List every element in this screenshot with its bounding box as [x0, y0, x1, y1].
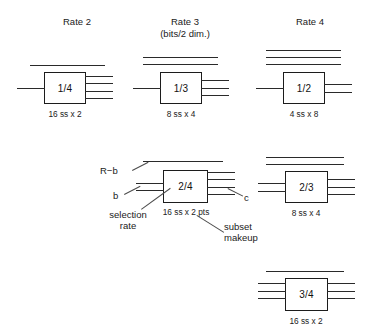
wire-right-1	[201, 80, 229, 81]
leader-line-subset-makeup	[196, 215, 224, 233]
rate-box-label: 2/4	[178, 181, 193, 192]
annotation-selection-rate: selection rate	[94, 209, 162, 231]
column-title: Rate 4	[260, 16, 360, 28]
wire-left-1	[258, 283, 286, 284]
wire-right-4	[85, 98, 113, 99]
wire-left-2	[258, 291, 286, 292]
wire-right-4	[207, 194, 235, 195]
rate-box: 1/4	[44, 72, 86, 104]
annotation-b: b	[113, 190, 118, 201]
column-header-rate-4: Rate 4	[260, 16, 360, 28]
wire-right-3	[207, 187, 235, 188]
wire-left-1	[133, 88, 161, 89]
annotation-c: c	[244, 192, 249, 203]
wire-right-2	[327, 291, 355, 292]
wire-right-3	[85, 91, 113, 92]
wire-left-2	[258, 191, 286, 192]
annotation-subset-makeup-line-1: subset	[224, 221, 258, 232]
column-header-rate-3: Rate 3 (bits/2 dim.)	[135, 16, 235, 39]
rate-box-diagram: Rate 2 Rate 3 (bits/2 dim.) Rate 4 1/4 1…	[0, 0, 367, 334]
wire-above	[143, 161, 223, 162]
rate-box-label: 1/3	[174, 83, 189, 94]
wire-right-1	[327, 179, 355, 180]
wire-left-1	[136, 183, 164, 184]
rate-box-label: 3/4	[299, 289, 314, 300]
wire-right-2	[324, 92, 352, 93]
wire-right-2	[327, 187, 355, 188]
wire-left-1	[17, 88, 45, 89]
annotation-selection-rate-line-1: selection	[94, 209, 162, 220]
rate-box-caption: 8 ss x 4	[131, 109, 231, 119]
wire-right-3	[327, 194, 355, 195]
column-subtitle: (bits/2 dim.)	[135, 28, 235, 40]
wire-right-3	[201, 95, 229, 96]
wire-right-1	[207, 172, 235, 173]
rate-box-label: 2/3	[299, 182, 314, 193]
wire-above	[266, 271, 344, 272]
rate-box-caption: 8 ss x 4	[256, 208, 356, 218]
wire-left-1	[256, 88, 284, 89]
wire-right-1	[324, 84, 352, 85]
leader-line-c	[228, 188, 244, 197]
rate-box: 3/4	[285, 278, 328, 311]
wire-right-2	[85, 83, 113, 84]
rate-box-caption: 16 ss x 2	[15, 109, 115, 119]
wire-above-2	[266, 57, 341, 58]
leader-line-r-minus-b	[132, 162, 148, 171]
wire-right-1	[85, 76, 113, 77]
rate-box-label: 1/2	[297, 83, 312, 94]
wire-right-1	[327, 283, 355, 284]
rate-box: 1/3	[160, 72, 202, 104]
wire-left-3	[258, 298, 286, 299]
wire-left-1	[258, 183, 286, 184]
wire-right-2	[201, 88, 229, 89]
annotation-subset-makeup: subset makeup	[224, 221, 258, 243]
wire-above-3	[266, 64, 341, 65]
rate-box-caption: 4 ss x 8	[254, 109, 354, 119]
wire-above-2	[143, 64, 218, 65]
wire-above-2	[266, 164, 344, 165]
wire-right-2	[207, 179, 235, 180]
wire-above-1	[266, 50, 341, 51]
wire-above-1	[266, 157, 344, 158]
rate-box: 1/2	[283, 72, 325, 104]
wire-above-1	[143, 57, 218, 58]
wire-right-3	[327, 298, 355, 299]
annotation-r-minus-b: R−b	[100, 165, 118, 176]
rate-box: 2/3	[285, 171, 328, 203]
wire-left-2	[136, 190, 164, 191]
wire-above	[30, 65, 105, 66]
column-title: Rate 2	[27, 16, 127, 28]
column-title: Rate 3	[135, 16, 235, 28]
annotation-subset-makeup-line-2: makeup	[224, 232, 258, 243]
rate-box-label: 1/4	[58, 83, 73, 94]
annotation-selection-rate-line-2: rate	[94, 220, 162, 231]
rate-box-caption: 16 ss x 2	[256, 316, 356, 326]
column-header-rate-2: Rate 2	[27, 16, 127, 28]
